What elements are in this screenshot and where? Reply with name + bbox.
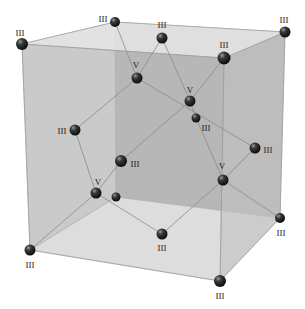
atom-label: III [277, 228, 286, 238]
atom-label: III [131, 159, 140, 169]
atom-group-iii [115, 155, 127, 167]
atom-label: III [158, 243, 167, 253]
unit-cell-diagram: IIIIIIIIIIIIIIIVVIIIIIIIIIIIIVVIIIIIIIII… [0, 0, 305, 309]
atom-label: III [220, 40, 229, 50]
right-face [220, 32, 285, 281]
atom-label: III [16, 28, 25, 38]
atom-label: V [95, 177, 102, 187]
atom-group-iii [25, 245, 36, 256]
atom-group-iii [110, 17, 120, 27]
atom-group-iii [70, 125, 81, 136]
atom-label: III [99, 14, 108, 24]
atom-label: III [280, 15, 289, 25]
atom-label: III [26, 260, 35, 270]
atom-group-iii [16, 38, 28, 50]
atom-group-iii [218, 52, 231, 65]
cube-faces [22, 22, 285, 281]
atom-group-iii [112, 193, 121, 202]
atom-group-iii [157, 33, 168, 44]
atom-label: V [133, 60, 140, 70]
atom-group-v [185, 96, 196, 107]
atom-label: V [219, 161, 226, 171]
atom-label: III [216, 291, 225, 301]
atom-label: III [158, 20, 167, 30]
atom-group-v [132, 73, 143, 84]
atom-group-iii [157, 229, 168, 240]
atom-group-iii [275, 213, 285, 223]
atom-group-iii [250, 143, 261, 154]
atom-group-iii [280, 27, 291, 38]
atom-group-v [91, 188, 102, 199]
atom-label: V [187, 85, 194, 95]
atom-label: III [202, 123, 211, 133]
atom-label: III [264, 145, 273, 155]
atom-label: III [58, 126, 67, 136]
atom-group-iii [214, 275, 226, 287]
atom-group-v [218, 175, 229, 186]
atom-group-iii [192, 114, 201, 123]
